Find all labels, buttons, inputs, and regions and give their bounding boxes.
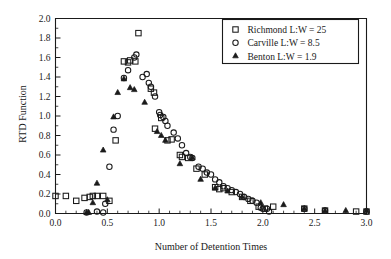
y-tick-label: 0.0 bbox=[39, 209, 51, 219]
y-tick-label: 0.6 bbox=[39, 150, 51, 160]
data-point bbox=[74, 198, 79, 203]
y-tick-label: 0.8 bbox=[39, 131, 51, 141]
data-point bbox=[152, 94, 157, 99]
data-point bbox=[175, 136, 180, 141]
y-axis-title: RTD Function bbox=[17, 85, 28, 142]
data-point bbox=[94, 180, 100, 185]
data-point bbox=[100, 210, 105, 215]
y-tick-label: 0.2 bbox=[39, 189, 51, 199]
rtd-scatter-chart: 0.00.51.01.52.02.53.0 0.00.20.40.60.81.0… bbox=[0, 0, 391, 259]
data-point bbox=[171, 130, 176, 135]
data-point bbox=[271, 204, 276, 209]
data-point bbox=[113, 138, 118, 143]
data-point bbox=[136, 30, 141, 35]
x-axis-ticks bbox=[56, 209, 367, 214]
data-point bbox=[90, 200, 96, 205]
x-tick-label: 3.0 bbox=[361, 218, 373, 228]
y-tick-label: 1.2 bbox=[39, 92, 51, 102]
chart-legend: Richmond L:W = 25Carville L:W = 8.5Bento… bbox=[223, 20, 359, 64]
y-tick-label: 2.0 bbox=[39, 14, 51, 24]
data-point bbox=[63, 193, 68, 198]
x-tick-label: 1.0 bbox=[153, 218, 165, 228]
data-point bbox=[179, 143, 184, 148]
y-tick-label: 1.0 bbox=[39, 111, 51, 121]
data-point bbox=[142, 99, 148, 104]
y-tick-label: 1.8 bbox=[39, 33, 51, 43]
data-point bbox=[107, 164, 112, 169]
data-point bbox=[177, 161, 183, 166]
data-point bbox=[115, 89, 121, 94]
legend-label: Richmond L:W = 25 bbox=[248, 25, 327, 35]
x-tick-label: 1.5 bbox=[205, 218, 217, 228]
data-point bbox=[281, 202, 287, 207]
y-tick-label: 1.6 bbox=[39, 53, 51, 63]
legend-label: Carville L:W = 8.5 bbox=[248, 38, 320, 48]
y-axis-tick-labels: 0.00.20.40.60.81.01.21.41.61.82.0 bbox=[39, 14, 51, 219]
y-tick-label: 1.4 bbox=[39, 72, 51, 82]
series-benton bbox=[84, 76, 370, 215]
x-tick-label: 2.0 bbox=[257, 218, 269, 228]
data-point bbox=[144, 71, 149, 76]
x-axis-title: Number of Detention Times bbox=[155, 241, 268, 252]
data-point bbox=[343, 207, 349, 212]
data-point bbox=[100, 193, 105, 198]
y-tick-label: 0.4 bbox=[39, 170, 51, 180]
chart-figure: 0.00.51.01.52.02.53.0 0.00.20.40.60.81.0… bbox=[0, 0, 391, 259]
legend-label: Benton L:W = 1.9 bbox=[248, 52, 317, 62]
data-point bbox=[100, 147, 106, 152]
data-point bbox=[177, 152, 182, 157]
x-tick-label: 0.0 bbox=[50, 218, 62, 228]
x-tick-label: 0.5 bbox=[101, 218, 113, 228]
y-axis-ticks bbox=[56, 19, 61, 214]
data-point bbox=[125, 67, 130, 72]
x-axis-tick-labels: 0.00.51.01.52.02.53.0 bbox=[50, 218, 373, 228]
x-tick-label: 2.5 bbox=[309, 218, 321, 228]
data-point bbox=[82, 195, 87, 200]
data-point bbox=[165, 123, 170, 128]
data-point bbox=[127, 85, 133, 90]
data-point bbox=[111, 127, 116, 132]
